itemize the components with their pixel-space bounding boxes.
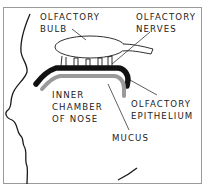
jaw-line bbox=[118, 168, 137, 180]
label-olfactory-epithelium: OLFACTORY EPITHELIUM bbox=[131, 98, 193, 122]
label-olfactory-nerves: OLFACTORY NERVES bbox=[136, 11, 196, 35]
label-olfactory-bulb: OLFACTORY BULB bbox=[40, 11, 100, 35]
olfactory-bulb-shape bbox=[55, 36, 125, 58]
label-inner-chamber: INNER CHAMBER OF NOSE bbox=[52, 89, 103, 125]
face-profile bbox=[6, 14, 30, 184]
leader-epithelium bbox=[130, 80, 157, 95]
label-mucus: MUCUS bbox=[112, 132, 149, 144]
olfactory-tract bbox=[123, 44, 153, 54]
